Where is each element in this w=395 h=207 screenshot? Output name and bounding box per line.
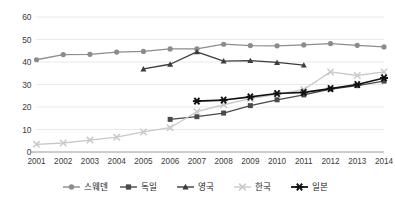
chart-legend: 스웨덴독일영국한국일본 <box>63 181 328 192</box>
marker-square <box>168 117 173 122</box>
legend-label: 독일 <box>141 182 157 192</box>
y-tick-label: 10 <box>22 125 32 135</box>
marker-square <box>194 114 199 119</box>
x-tick-label: 2014 <box>375 157 394 166</box>
marker-circle <box>355 43 360 48</box>
y-tick-label: 60 <box>22 12 32 22</box>
marker-square <box>126 184 131 189</box>
marker-circle <box>168 46 173 51</box>
x-tick-label: 2011 <box>295 157 313 166</box>
x-tick-label: 2007 <box>188 157 207 166</box>
series-line-스웨덴 <box>37 44 385 60</box>
legend-item-한국: 한국 <box>234 182 271 192</box>
y-tick-label: 50 <box>22 35 32 45</box>
x-tick-label: 2012 <box>321 157 340 166</box>
marker-circle <box>69 184 74 189</box>
x-tick-label: 2004 <box>108 157 127 166</box>
legend-label: 한국 <box>255 182 271 192</box>
y-tick-label: 30 <box>22 80 32 90</box>
chart-svg: 0102030405060 20012002200320042005200620… <box>0 0 395 207</box>
marker-circle <box>301 42 306 47</box>
marker-circle <box>274 43 279 48</box>
marker-circle <box>381 44 386 49</box>
series-line-한국 <box>37 72 385 144</box>
marker-square <box>221 111 226 116</box>
x-tick-label: 2002 <box>54 157 73 166</box>
line-chart-container: 0102030405060 20012002200320042005200620… <box>0 0 395 207</box>
marker-circle <box>114 50 119 55</box>
legend-item-일본: 일본 <box>291 182 328 192</box>
y-tick-label: 40 <box>22 57 32 67</box>
marker-circle <box>87 52 92 57</box>
y-tick-label: 20 <box>22 102 32 112</box>
legend-label: 영국 <box>198 182 214 192</box>
marker-asterisk <box>220 97 228 104</box>
marker-square <box>248 103 253 108</box>
legend-item-독일: 독일 <box>120 182 157 192</box>
marker-asterisk <box>273 90 281 97</box>
x-tick-label: 2005 <box>134 157 153 166</box>
x-tick-label: 2003 <box>81 157 100 166</box>
x-tick-label: 2009 <box>241 157 260 166</box>
x-tick-label: 2010 <box>268 157 287 166</box>
legend-item-스웨덴: 스웨덴 <box>63 181 108 192</box>
x-axis-tick-labels: 2001200220032004200520062007200820092010… <box>27 157 393 166</box>
marker-square <box>275 97 280 102</box>
marker-circle <box>61 52 66 57</box>
legend-label: 스웨덴 <box>84 181 108 192</box>
marker-circle <box>248 43 253 48</box>
legend-label: 일본 <box>312 182 328 192</box>
marker-circle <box>221 42 226 47</box>
marker-circle <box>34 57 39 62</box>
x-tick-label: 2006 <box>161 157 180 166</box>
marker-circle <box>141 49 146 54</box>
plot-area: 0102030405060 20012002200320042005200620… <box>0 0 395 207</box>
x-tick-label: 2001 <box>27 157 46 166</box>
marker-asterisk <box>193 98 201 105</box>
marker-asterisk <box>295 184 303 191</box>
y-axis-tick-labels: 0102030405060 <box>22 12 32 157</box>
x-tick-label: 2008 <box>215 157 234 166</box>
x-tick-label: 2013 <box>348 157 367 166</box>
legend-item-영국: 영국 <box>177 182 214 192</box>
marker-circle <box>328 41 333 46</box>
